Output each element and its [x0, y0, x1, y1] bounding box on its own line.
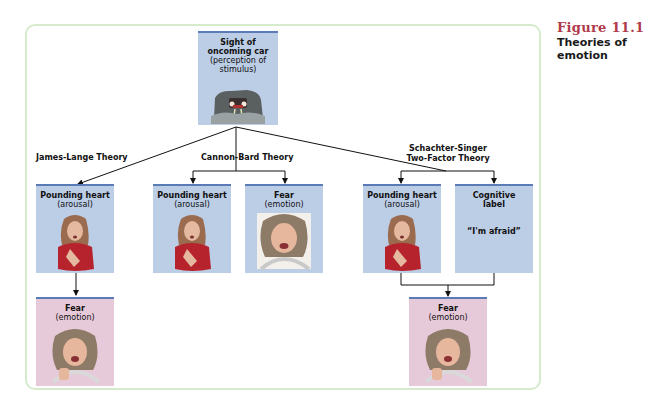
box-subtitle: (arousal) [153, 200, 231, 209]
box-title: Pounding heart [363, 191, 441, 200]
cannon-bard-fear-box: Fear (emotion) [245, 184, 323, 273]
frightened-woman-driving-icon [49, 326, 101, 384]
schachter-singer-cognitive-label-box: Cognitive label “I'm afraid” [455, 184, 533, 273]
stimulus-subtitle: (perception of stimulus) [198, 56, 278, 74]
box-title: Pounding heart [153, 191, 231, 200]
stimulus-box: Sight of oncoming car (perception of sti… [198, 31, 278, 125]
cannon-bard-arousal-box: Pounding heart (arousal) [153, 184, 231, 273]
box-title: Fear [409, 304, 487, 313]
box-subtitle: (emotion) [409, 313, 487, 322]
box-title: Fear [245, 191, 323, 200]
frightened-woman-driving-icon [422, 326, 474, 384]
theory-label-schachter-singer: Schachter-Singer Two-Factor Theory [398, 144, 498, 164]
james-lange-arousal-box: Pounding heart (arousal) [36, 184, 114, 273]
box-title: Fear [36, 304, 114, 313]
box-title: Pounding heart [36, 191, 114, 200]
woman-hand-on-chest-icon [50, 213, 100, 273]
oncoming-car-icon [211, 88, 265, 124]
theory-label-cannon-bard: Cannon-Bard Theory [201, 153, 293, 163]
schachter-singer-fear-box: Fear (emotion) [409, 297, 487, 386]
box-title-line2: label [455, 200, 533, 209]
frightened-woman-driving-icon [255, 211, 313, 271]
cognitive-label-quote: “I'm afraid” [455, 227, 533, 236]
box-subtitle: (emotion) [36, 313, 114, 322]
woman-hand-on-chest-icon [167, 213, 217, 273]
box-subtitle: (emotion) [245, 200, 323, 209]
schachter-singer-arousal-box: Pounding heart (arousal) [363, 184, 441, 273]
box-subtitle: (arousal) [363, 200, 441, 209]
box-subtitle: (arousal) [36, 200, 114, 209]
box-title-line1: Cognitive [455, 191, 533, 200]
theory-label-line1: Schachter-Singer [398, 144, 498, 154]
james-lange-fear-box: Fear (emotion) [36, 297, 114, 386]
woman-hand-on-chest-icon [377, 213, 427, 273]
stimulus-title: Sight of oncoming car [198, 38, 278, 56]
theory-label-james-lange: James-Lange Theory [36, 153, 128, 163]
theory-label-line2: Two-Factor Theory [398, 154, 498, 164]
